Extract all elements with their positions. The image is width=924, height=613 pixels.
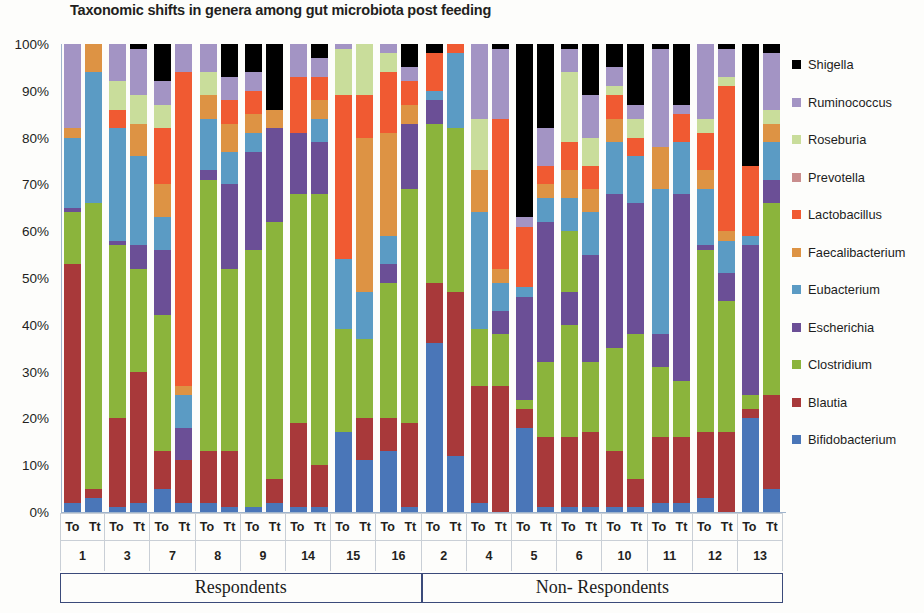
bar-segment [426,343,443,511]
bar-segment [697,432,714,498]
bar-segment [561,170,578,198]
legend-swatch-icon [792,285,801,294]
timepoint-pair-cell: ToTt [286,513,331,541]
legend-item[interactable]: Lactobacillus [792,196,924,234]
bar-segment [85,72,102,203]
subject-id-cell: 14 [286,541,331,571]
stacked-bar [426,44,443,512]
bar-segment [763,124,780,143]
bar-segment [380,451,397,512]
bar-segment [582,189,599,212]
timepoint-pair-cell: ToTt [196,513,241,541]
subject-id-cell: 15 [331,541,376,571]
y-tick-label: 40% [22,317,49,332]
bar-segment [154,105,171,128]
stacked-bar [356,44,373,512]
timepoint-label: Tt [535,514,558,540]
bar-segment [516,217,533,226]
timepoint-label: Tt [625,514,648,540]
bar-segment [154,315,171,451]
bar-segment [582,432,599,507]
legend-item[interactable]: Shigella [792,46,924,84]
bar-segment [154,128,171,184]
timepoint-pair-cell: ToTt [376,513,421,541]
stacked-bar [742,44,759,512]
bar-segment [64,128,81,137]
bar-segment [697,498,714,512]
stacked-bar [516,44,533,512]
legend-item[interactable]: Ruminococcus [792,84,924,122]
bar-segment [290,77,307,133]
timepoint-label: To [512,514,535,540]
bar-segment [471,212,488,329]
bar-segment [109,110,126,129]
legend-item[interactable]: Eubacterium [792,271,924,309]
timepoint-label: To [241,514,264,540]
subject-id-label: 16 [376,541,420,571]
legend-label: Clostridium [808,357,872,372]
subject-id-label: 3 [105,541,149,571]
bar-segment [492,334,509,385]
bar-segment [606,95,623,118]
bar-segment [763,489,780,512]
subject-id-cell: 2 [422,541,467,571]
subject-id-cell: 1 [60,541,105,571]
subject-id-label: 9 [241,541,285,571]
stacked-bar [380,44,397,512]
bar-segment [64,44,81,128]
bar-segment [130,95,147,123]
bar-segment [697,133,714,170]
bar-segment [582,44,599,95]
bar-segment [471,329,488,385]
legend-swatch-icon [792,323,801,332]
timepoint-label: To [105,514,128,540]
bar-segment [537,198,554,221]
stacked-bar [200,44,217,512]
stacked-bar [652,44,669,512]
bar-segment [763,180,780,203]
legend-item[interactable]: Escherichia [792,309,924,347]
bar-segment [311,119,328,142]
legend-item[interactable]: Blautia [792,384,924,422]
bar-segment [561,72,578,142]
bar-segment [516,428,533,512]
legend-swatch-icon [792,435,801,444]
legend-item[interactable]: Faecalibacterium [792,234,924,272]
bar-segment [561,507,578,512]
legend-label: Roseburia [808,132,866,147]
bar-segment [447,44,464,53]
subject-id-cell: 13 [738,541,783,571]
bar-segment [718,241,735,274]
stacked-bar [582,44,599,512]
legend-item[interactable]: Prevotella [792,159,924,197]
plot-area [61,44,785,512]
timepoint-pair-cell: ToTt [422,513,467,541]
bar-segment [335,49,352,96]
y-tick-label: 60% [22,224,49,239]
legend-item[interactable]: Bifidobacterium [792,421,924,459]
bar-segment [200,451,217,502]
bar-segment [221,44,238,77]
legend-label: Shigella [808,57,854,72]
bar-segment [356,138,373,292]
bar-segment [64,138,81,208]
bar-segment [85,203,102,488]
subject-id-label: 11 [648,541,692,571]
bar-segment [266,222,283,479]
bar-segment [447,128,464,292]
bar-segment [175,503,192,512]
bar-segment [311,142,328,193]
bar-segment [561,292,578,325]
legend-item[interactable]: Roseburia [792,121,924,159]
legend-item[interactable]: Clostridium [792,346,924,384]
timepoint-label: Tt [444,514,467,540]
bar-segment [582,362,599,432]
bar-segment [763,395,780,489]
subject-id-cell: 3 [105,541,150,571]
timepoint-label: Tt [399,514,422,540]
bar-segment [154,489,171,512]
timepoint-pair-cell: ToTt [60,513,105,541]
bar-segment [380,236,397,264]
bar-segment [582,138,599,166]
bar-segment [221,269,238,452]
